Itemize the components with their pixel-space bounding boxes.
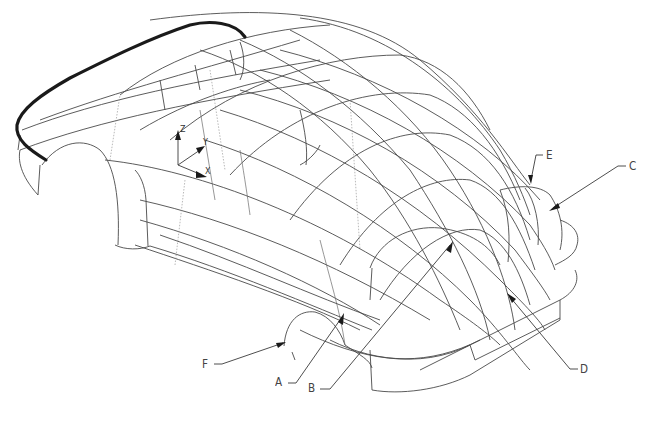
- callout-label-c: C: [629, 159, 636, 172]
- callout-label-f: F: [202, 357, 208, 370]
- callout-label-e: E: [546, 148, 553, 161]
- axis-label-z: Z: [180, 126, 185, 134]
- body-wireframe: [18, 13, 578, 392]
- callout-label-b: B: [308, 381, 315, 394]
- axis-label-y: Y: [203, 139, 208, 147]
- callout-leaders: [214, 155, 626, 389]
- axis-label-x: X: [205, 168, 210, 176]
- callout-label-a: A: [275, 375, 282, 388]
- callout-label-d: D: [580, 362, 588, 375]
- car-wireframe-drawing: [0, 0, 646, 427]
